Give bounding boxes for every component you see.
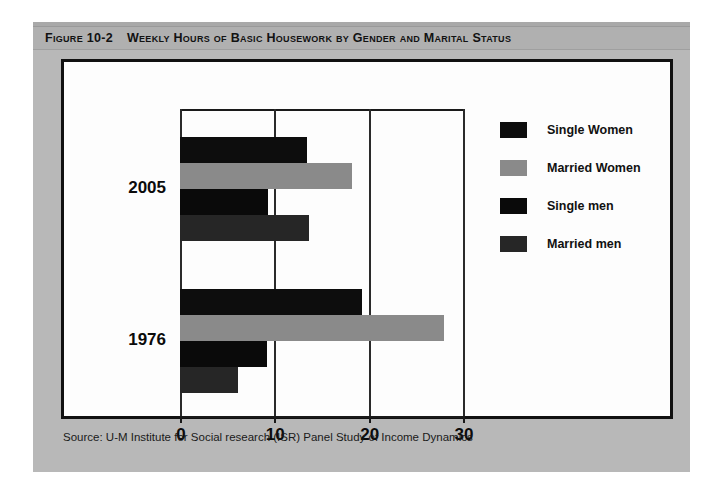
legend-swatch-icon [500,160,527,176]
legend-label: Single Women [547,123,633,137]
bar-single-men-1976 [180,341,267,367]
tick-mark-30 [463,416,465,423]
bar-married-women-1976 [180,315,444,341]
legend-swatch-icon [500,122,527,138]
plot-area: 0102030 [180,109,463,416]
tick-mark-0 [180,416,182,423]
bar-single-men-2005 [180,189,268,215]
legend-item-single-men[interactable]: Single men [500,196,670,216]
figure-title-band: Figure 10-2 Weekly Hours of Basic Housew… [33,26,690,50]
x-axis-line [180,416,463,418]
figure-panel: Figure 10-2 Weekly Hours of Basic Housew… [33,22,690,472]
legend-swatch-icon [500,236,527,252]
legend-label: Married Women [547,161,641,175]
tick-mark-10 [274,416,276,423]
figure-number: Figure 10-2 [45,31,113,45]
legend-item-married-women[interactable]: Married Women [500,158,670,178]
legend-label: Married men [547,237,621,251]
source-note: Source: U-M Institute for Social researc… [63,431,473,443]
tick-mark-20 [369,416,371,423]
legend-item-single-women[interactable]: Single Women [500,120,670,140]
bar-married-women-2005 [180,163,352,189]
bar-married-men-1976 [180,367,238,393]
bar-single-women-1976 [180,289,362,315]
bar-married-men-2005 [180,215,309,241]
group-label-2005: 2005 [96,178,166,198]
chart-container: 0102030 20051976 Single WomenMarried Wom… [61,59,673,419]
bar-single-women-2005 [180,137,307,163]
gridline-30 [463,109,465,416]
chart-legend: Single WomenMarried WomenSingle menMarri… [500,120,670,272]
gridline-20 [369,109,371,416]
legend-swatch-icon [500,198,527,214]
group-label-1976: 1976 [96,330,166,350]
figure-title: Weekly Hours of Basic Housework by Gende… [127,31,511,45]
plot-top-rule [180,109,463,111]
legend-label: Single men [547,199,614,213]
legend-item-married-men[interactable]: Married men [500,234,670,254]
